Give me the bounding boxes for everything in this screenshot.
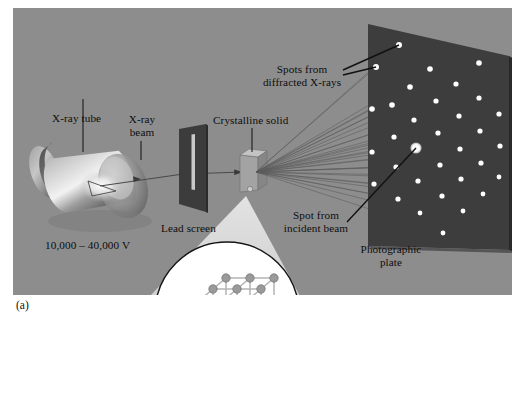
label-voltage: 10,000 – 40,000 V — [45, 239, 130, 251]
label-xray-tube: X-ray tube — [52, 112, 101, 124]
diffraction-spot — [458, 176, 463, 181]
label-plate-line2: plate — [348, 256, 434, 268]
diffraction-spot — [415, 178, 420, 183]
diffraction-spot — [435, 130, 440, 135]
diffraction-spot — [457, 146, 462, 151]
lattice-bond — [213, 302, 226, 313]
lattice-atom — [244, 320, 252, 328]
diffraction-spot — [411, 117, 416, 122]
lattice-bond — [200, 313, 213, 324]
lattice-atom — [246, 322, 254, 330]
lattice-atom — [244, 344, 252, 352]
diffraction-spot — [456, 113, 461, 118]
lattice-bond — [200, 337, 213, 348]
lattice-circle — [155, 242, 299, 386]
lattice-atom — [222, 322, 230, 330]
lattice-atom — [220, 344, 228, 352]
diffraction-spot — [461, 209, 466, 214]
diffraction-spot — [427, 66, 433, 72]
photographic-plate — [368, 24, 514, 253]
figure-canvas: X-ray tube X-ray beam 10,000 – 40,000 V … — [0, 0, 523, 394]
lattice-bond — [248, 313, 261, 324]
diffraction-spot — [478, 160, 483, 165]
crystal-beam-exit-point — [247, 186, 252, 191]
lattice-atom — [222, 298, 230, 306]
lattice-bond — [224, 313, 237, 324]
diffraction-spot — [369, 149, 374, 154]
diffraction-spot — [476, 60, 482, 66]
lattice-atom — [257, 333, 265, 341]
label-incident-line2: incident beam — [271, 222, 361, 234]
diffraction-spot — [439, 193, 444, 198]
diffraction-spot — [369, 106, 375, 112]
lattice-atom — [209, 333, 217, 341]
plate-right-edge — [509, 56, 514, 253]
lead-screen — [179, 124, 208, 213]
diffraction-spot — [407, 84, 413, 90]
lattice-atom — [209, 309, 217, 317]
lattice-bond — [213, 326, 226, 337]
lattice-bond — [237, 326, 250, 337]
lattice-atom — [220, 320, 228, 328]
diffraction-spot — [418, 211, 423, 216]
lattice-bond — [261, 326, 274, 337]
label-xray-beam-line1: X-ray — [121, 113, 163, 125]
lattice-atom — [257, 285, 265, 293]
lead-screen-slit — [192, 134, 196, 190]
lattice-bond — [237, 302, 250, 313]
lattice-atom — [270, 298, 278, 306]
label-incident-line1: Spot from — [281, 209, 351, 221]
label-plate-line1: Photographic — [348, 243, 434, 255]
lattice-bond — [248, 337, 261, 348]
diffraction-spot — [497, 175, 502, 180]
lattice-atom — [270, 274, 278, 282]
lattice-atom — [246, 274, 254, 282]
diffraction-spot — [371, 181, 376, 186]
diffraction-spot — [497, 143, 502, 148]
lattice-atom — [244, 296, 252, 304]
lattice-atom — [222, 274, 230, 282]
label-lead-screen: Lead screen — [161, 222, 216, 234]
diffraction-spot — [476, 95, 481, 100]
diffraction-spot — [389, 102, 395, 108]
figure-panel-label: (a) — [16, 299, 29, 311]
lattice-bond — [224, 337, 237, 348]
lattice-atom — [196, 320, 204, 328]
lattice-atom — [233, 333, 241, 341]
xray-tube-assembly — [23, 135, 156, 232]
diffraction-spot — [433, 98, 438, 103]
lattice-atom — [257, 309, 265, 317]
lattice-atom — [270, 322, 278, 330]
label-spots-line2: diffracted X-rays — [252, 76, 352, 88]
lattice-atom — [220, 296, 228, 304]
plate-face — [368, 24, 509, 250]
diffraction-spot — [441, 231, 446, 236]
diffraction-spot — [496, 111, 501, 116]
lattice-atom — [246, 298, 254, 306]
diffraction-spot — [391, 134, 396, 139]
diffraction-spot — [477, 128, 482, 133]
label-xray-beam-line2: beam — [121, 126, 163, 138]
lattice-atom — [196, 296, 204, 304]
label-crystalline-solid: Crystalline solid — [213, 114, 288, 126]
diffraction-spot — [481, 192, 486, 197]
tube-shadow — [48, 210, 152, 232]
label-spots-line1: Spots from — [260, 63, 344, 75]
lattice-atom — [196, 344, 204, 352]
crystal-lattice-inset — [155, 242, 299, 386]
lattice-atom — [233, 285, 241, 293]
diagram-artwork — [0, 0, 523, 394]
diffraction-spot — [453, 81, 458, 86]
diffraction-spot — [437, 162, 442, 167]
lattice-atom — [233, 309, 241, 317]
lead-screen-edge — [206, 124, 208, 213]
lattice-bond — [261, 302, 274, 313]
diffraction-spot — [395, 196, 400, 201]
lattice-atom — [209, 285, 217, 293]
